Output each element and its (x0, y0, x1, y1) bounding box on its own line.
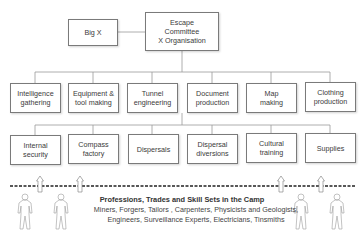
big-x-label: Big X (84, 28, 101, 37)
arrow-up-icon (278, 176, 285, 192)
row2-box-internal-security: Internal security (10, 135, 61, 165)
row2-box-compass: Compass factory (68, 134, 119, 164)
row1-box-tunnel: Tunnel engineering (127, 83, 178, 113)
row2-label: Dispersal diversions (196, 140, 228, 158)
row1-label: Tunnel engineering (134, 89, 172, 107)
row2-box-cultural: Cultural training (246, 133, 297, 163)
base-professions-line1: Miners, Forgers, Tailors , Carpenters, P… (14, 205, 364, 214)
row1-label: Equipment & tool making (73, 89, 114, 107)
row1-label: Intelligence gathering (17, 89, 53, 107)
base-title: Professions, Trades and Skill Sets in th… (0, 195, 364, 204)
row1-box-clothing: Clothing production (305, 82, 356, 112)
escape-committee-label: Escape Committee X Organisation (158, 18, 206, 45)
arrow-up-icon (37, 176, 44, 192)
row2-label: Supplies (317, 144, 345, 153)
arrow-up-icon (77, 176, 84, 192)
row1-label: Clothing production (314, 88, 348, 106)
row2-box-supplies: Supplies (305, 133, 356, 163)
row1-box-map: Map making (246, 83, 297, 113)
row1-label: Document production (196, 89, 230, 107)
row2-label: Compass factory (78, 140, 108, 158)
base-professions-line2: Engineers, Surveillance Experts, Electri… (14, 215, 364, 224)
row1-box-intelligence: Intelligence gathering (10, 83, 61, 113)
row1-label: Map making (260, 89, 283, 107)
row1-box-equipment: Equipment & tool making (68, 83, 119, 113)
row2-label: Dispersals (137, 145, 171, 154)
row2-label: Cultural training (259, 139, 284, 157)
row2-label: Internal security (23, 141, 48, 159)
escape-committee-box: Escape Committee X Organisation (145, 12, 219, 51)
row2-box-dispersal-diversions: Dispersal diversions (187, 134, 238, 164)
arrow-up-icon (318, 176, 325, 192)
row1-box-document: Document production (187, 83, 238, 113)
big-x-box: Big X (68, 19, 118, 46)
row2-box-dispersals: Dispersals (128, 134, 179, 164)
